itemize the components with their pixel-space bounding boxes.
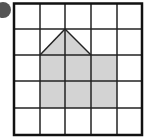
grid-diagram: [0, 0, 144, 139]
shaded-shape: [40, 29, 117, 108]
bullet-marker-icon: [0, 2, 11, 18]
